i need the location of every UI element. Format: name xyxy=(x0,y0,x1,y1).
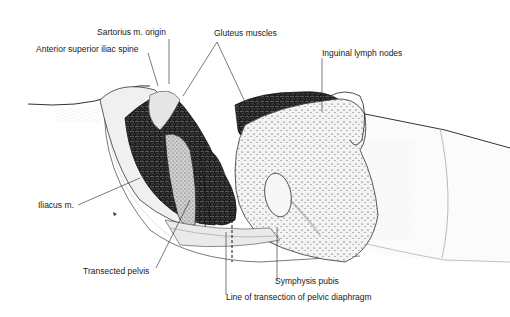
anatomical-diagram: Sartorius m. origin Anterior superior il… xyxy=(0,0,510,317)
label-iliacus: Iliacus m. xyxy=(38,201,74,210)
label-transected-pelvis: Transected pelvis xyxy=(83,267,149,276)
label-gluteus-muscles: Gluteus muscles xyxy=(214,29,277,38)
label-sartorius-origin: Sartorius m. origin xyxy=(97,28,166,37)
label-anterior-superior-iliac-spine: Anterior superior iliac spine xyxy=(36,45,139,54)
label-symphysis-pubis: Symphysis pubis xyxy=(275,277,339,286)
label-inguinal-lymph-nodes: Inguinal lymph nodes xyxy=(322,49,402,58)
label-line-of-transection: Line of transection of pelvic diaphragm xyxy=(226,293,372,302)
